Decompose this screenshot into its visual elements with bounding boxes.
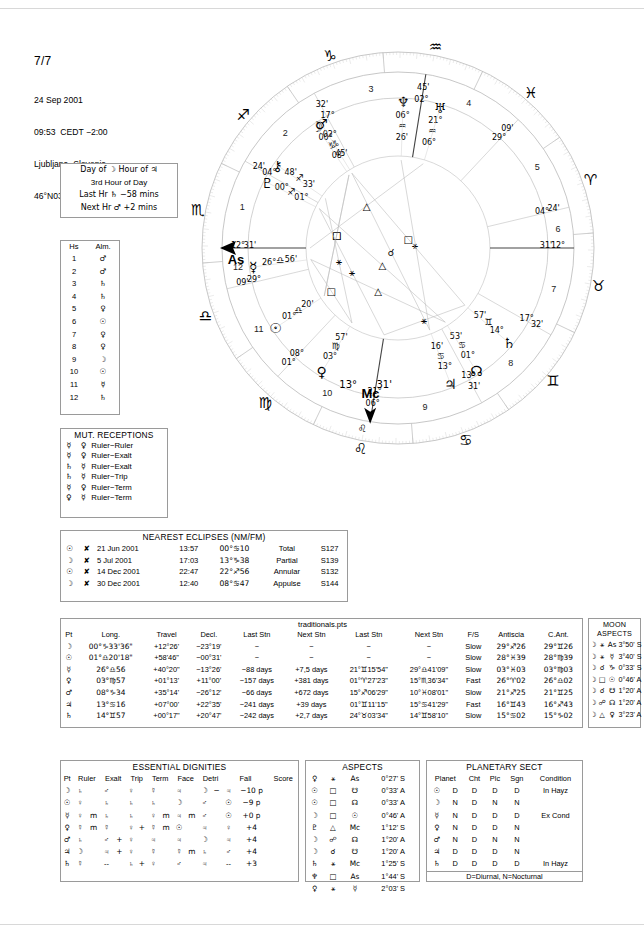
mutual-reception-row: ☿♀Ruler−Ruler (61, 441, 167, 451)
planet-sign-mars: ♑ (332, 139, 340, 149)
degree-tick (472, 426, 473, 429)
sign-divider (573, 233, 593, 235)
dignities-cell-6 (136, 834, 147, 846)
target-glyph: ☋ (607, 685, 618, 697)
aspect-symbol: □ (323, 797, 342, 809)
dignities-cell-1: ♀ (73, 797, 86, 809)
sect-sgn: N (505, 846, 529, 858)
eclipse-marker: ✘ (78, 578, 95, 590)
aspect-symbol: □ (323, 810, 342, 822)
degree-tick (208, 295, 214, 296)
astrology-chart-wheel[interactable]: ♈♉♊♋♌♍♎♏♐♑♒♓112°31'224'04°332'17°445'02°… (168, 26, 628, 496)
traditionals-header-9: Antiscia (488, 629, 535, 641)
traditionals-cell-10: 28°♍39 (535, 652, 582, 664)
moon-glyph: ☽ (589, 662, 597, 674)
dignities-cell-2 (86, 834, 100, 846)
degree-tick (581, 299, 587, 301)
degree-tick (513, 91, 515, 93)
almuten-planet: ☽ (87, 354, 119, 367)
degree-tick (447, 58, 448, 61)
mutual-reception-row: ♄☿Ruler−Trip (61, 472, 167, 482)
eclipse-type: Partial (262, 555, 312, 567)
dignities-cell-3: ♄ (100, 797, 112, 809)
traditionals-cell-10: 26°♎02 (535, 675, 582, 687)
aspect-body-a: ♀ (306, 883, 323, 895)
chart-wheel-svg[interactable]: ♈♉♊♋♌♍♎♏♐♑♒♓112°31'224'04°332'17°445'02°… (168, 26, 628, 496)
degree-tick (515, 401, 517, 403)
eclipse-saros: S144 (312, 578, 347, 590)
traditionals-cell-0: ♂ (61, 687, 77, 699)
degree-tick (332, 430, 333, 433)
traditionals-cell-6: 15°♐06'29" (339, 687, 399, 699)
degree-tick (496, 414, 498, 417)
degree-tick (363, 55, 364, 58)
sign-glyph-2: ♊ (546, 372, 559, 390)
degree-tick (491, 414, 494, 419)
degree-tick (538, 113, 540, 115)
aspect-symbol: △ (323, 822, 342, 834)
sect-planet-dn: D (447, 785, 464, 797)
sect-row: ♄DDDDIn Hayz (427, 858, 582, 870)
aspect-body-b: ☋ (342, 785, 367, 797)
degree-tick (534, 108, 536, 110)
traditionals-header-7: Next Stn (399, 629, 459, 641)
degree-tick (242, 365, 244, 367)
wheel-ring (306, 156, 490, 340)
eclipse-time: 13:57 (170, 543, 207, 555)
sect-sgn: N (505, 834, 529, 846)
degree-tick (531, 106, 533, 108)
degree-tick (499, 81, 501, 84)
degree-tick (205, 215, 208, 216)
degree-tick (417, 53, 418, 59)
almuten-row: 12♄ (61, 392, 119, 405)
degree-tick (561, 352, 564, 354)
degree-tick (251, 376, 253, 378)
degree-tick (345, 431, 347, 437)
dignities-cell-1: ☿ (73, 858, 86, 870)
target-glyph: ☿ (607, 651, 618, 663)
sect-planet: ♄ (427, 858, 447, 870)
traditionals-cell-2: +40°20" (145, 664, 188, 676)
mr-type: Ruler−Trip (90, 472, 167, 482)
aspect-glyph-mid-2: △ (374, 286, 382, 297)
hours-line-1: Day of ☽ Hour of ♃ (61, 164, 177, 177)
degree-tick (571, 161, 574, 162)
traditionals-cell-7: 10°♓08'01" (399, 687, 459, 699)
sign-divider (497, 393, 508, 410)
degree-tick (346, 59, 347, 62)
almuten-planet: ☿ (87, 379, 119, 392)
degree-tick (585, 297, 588, 298)
dignities-cell-11: ♂ (198, 810, 210, 822)
traditionals-title: traditionals.pts (61, 620, 584, 629)
sect-sgn: N (505, 797, 529, 809)
planet-sign-venus: ♍ (332, 341, 340, 351)
degree-tick (221, 331, 224, 332)
degree-tick (290, 84, 292, 87)
sign-divider (543, 137, 560, 148)
degree-tick (487, 419, 488, 422)
degree-tick (301, 416, 302, 419)
almuten-planet: ♄ (87, 291, 119, 304)
dignities-cell-12: − (211, 785, 223, 797)
dignities-cell-5: ♀ (126, 822, 136, 834)
traditionals-cell-4: −88 days (230, 664, 285, 676)
degree-tick (439, 436, 440, 439)
degree-tick (359, 56, 360, 59)
degree-tick (330, 64, 331, 67)
dignities-cell-10 (185, 834, 198, 846)
degree-tick (576, 315, 582, 317)
traditionals-cell-3: −13°26' (188, 664, 229, 676)
dignities-cell-1: ☿ (73, 822, 86, 834)
dignities-cell-6 (136, 785, 147, 797)
cusp-degree-9: 31' (468, 382, 480, 391)
moon-aspect-row: ☽⚹As3°50' S (589, 639, 642, 651)
sect-header-2: Plc (485, 773, 505, 785)
dignities-cell-2 (86, 797, 100, 809)
dignities-cell-8 (159, 858, 173, 870)
degree-tick (476, 421, 478, 426)
traditionals-cell-9: 21°♐25 (488, 687, 535, 699)
sign-glyph-0: ♈ (584, 171, 597, 189)
eclipse-saros: S139 (312, 555, 347, 567)
sign-glyph-6: ♎ (199, 307, 212, 325)
dignities-cell-4 (113, 797, 126, 809)
